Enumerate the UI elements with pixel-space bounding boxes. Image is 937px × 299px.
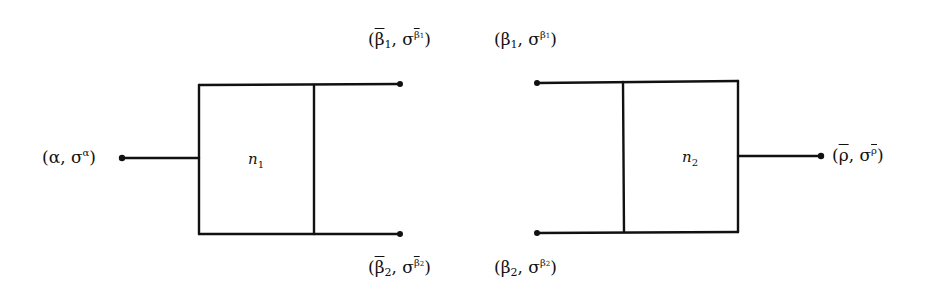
- n2-bottom-input-label: (β2, σβ2): [494, 258, 557, 278]
- output-sigma: σ: [859, 145, 871, 165]
- output-sigma-sup: ρ: [871, 145, 877, 156]
- n1-top-output-label: (β1, σβ1): [368, 30, 431, 50]
- sigma-sup-sub: 2: [546, 260, 550, 268]
- beta-bar-2: β: [375, 257, 385, 277]
- input-label: (α, σα): [42, 148, 96, 166]
- node-n2-subscript: 2: [692, 157, 698, 168]
- beta-1: β: [501, 29, 511, 49]
- sigma: σ: [528, 257, 540, 277]
- n2-divider: [623, 82, 624, 232]
- input-terminal-dot: [119, 155, 125, 161]
- node-n1-symbol: n: [248, 150, 258, 168]
- beta-bar-2-subscript: 2: [384, 266, 391, 279]
- rho-bar: ρ: [839, 145, 849, 165]
- n2-top-wire: [537, 81, 738, 83]
- input-alpha: α: [49, 147, 60, 167]
- node-n2-symbol: n: [682, 148, 692, 166]
- node-label-n2: n2: [682, 148, 698, 168]
- n2-top-terminal-dot: [534, 80, 540, 86]
- sigma: σ: [528, 29, 540, 49]
- n1-bottom-terminal-dot: [397, 231, 403, 237]
- beta-2-subscript: 2: [510, 266, 517, 279]
- beta-bar-1: β: [375, 29, 385, 49]
- output-terminal-dot: [818, 153, 824, 159]
- sigma-sup-sub: 2: [420, 260, 424, 268]
- sigma-sup-sub: 1: [546, 32, 550, 40]
- node-label-n1: n1: [248, 150, 264, 170]
- n2-bottom-terminal-dot: [534, 230, 540, 236]
- n1-bottom-output-label: (β2, σβ2): [368, 258, 431, 278]
- n1-top-wire: [199, 84, 400, 85]
- n2-bottom-wire: [537, 232, 738, 233]
- node-n1-subscript: 1: [258, 159, 264, 170]
- output-label: (ρ, σρ): [832, 146, 884, 164]
- sigma-sup-sub: 1: [420, 32, 424, 40]
- sigma: σ: [402, 257, 414, 277]
- beta-1-subscript: 1: [510, 38, 517, 51]
- input-sigma: σ: [71, 147, 83, 167]
- beta-2: β: [501, 257, 511, 277]
- input-sigma-sup: α: [83, 147, 90, 158]
- beta-bar-1-subscript: 1: [384, 38, 391, 51]
- n1-top-terminal-dot: [397, 81, 403, 87]
- sigma: σ: [402, 29, 414, 49]
- n2-top-input-label: (β1, σβ1): [494, 30, 557, 50]
- diagram-canvas: [0, 0, 937, 299]
